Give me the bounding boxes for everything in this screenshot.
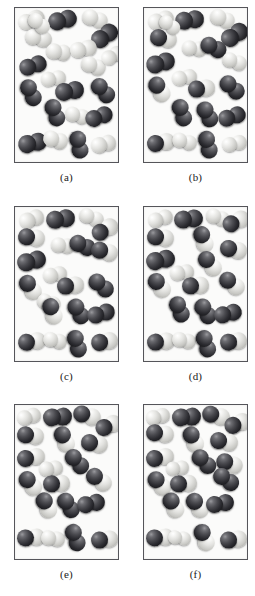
molecule-dark-light bbox=[219, 530, 248, 549]
panel-e-label: (e) bbox=[14, 568, 119, 580]
molecule-dark-dark bbox=[68, 129, 90, 160]
panel-c-frame bbox=[14, 206, 119, 362]
molecule-dark-dark bbox=[42, 407, 72, 427]
molecule-dark-dark bbox=[216, 72, 248, 104]
molecule-dark-dark bbox=[83, 104, 115, 130]
panel-b: (b) bbox=[143, 7, 248, 187]
molecule-light-light bbox=[40, 529, 66, 547]
molecule-dark-dark bbox=[167, 294, 193, 325]
molecule-dark-dark bbox=[193, 328, 218, 360]
molecule-dark-dark bbox=[196, 129, 219, 160]
panel-a-label: (a) bbox=[14, 171, 119, 183]
molecule-dark-light bbox=[90, 331, 119, 352]
panel-f-label: (f) bbox=[143, 568, 248, 580]
panel-d-frame bbox=[143, 206, 248, 362]
molecule-dark-light bbox=[209, 431, 239, 453]
molecule-dark-light bbox=[187, 79, 216, 98]
molecule-dark-light bbox=[33, 490, 60, 522]
molecule-dark-dark bbox=[76, 492, 107, 515]
panel-f: (f) bbox=[143, 404, 248, 584]
molecule-dark-light bbox=[80, 433, 110, 454]
molecule-light-light bbox=[167, 529, 192, 547]
panel-b-frame bbox=[143, 7, 248, 163]
molecule-dark-dark bbox=[216, 104, 248, 129]
molecule-dark-dark bbox=[171, 407, 201, 427]
molecule-light-light bbox=[89, 133, 118, 154]
molecule-dark-light bbox=[56, 276, 85, 295]
molecule-dark-light bbox=[219, 238, 248, 260]
atom-dark bbox=[181, 277, 199, 295]
molecule-dark-dark bbox=[87, 75, 118, 107]
molecule-dark-dark bbox=[85, 301, 117, 325]
panel-d-label: (d) bbox=[143, 370, 248, 382]
molecule-light-light bbox=[220, 51, 248, 73]
molecule-dark-dark bbox=[205, 493, 236, 515]
molecule-dark-light bbox=[146, 227, 175, 247]
panel-c: (c) bbox=[14, 206, 119, 386]
molecule-dark-light bbox=[219, 331, 248, 351]
molecule-dark-dark bbox=[212, 302, 244, 326]
panel-e-frame bbox=[14, 404, 119, 560]
molecule-dark-light bbox=[17, 227, 46, 247]
molecule-light-light bbox=[221, 134, 248, 154]
molecule-dark-light bbox=[160, 489, 187, 521]
panel-b-label: (b) bbox=[143, 171, 248, 183]
molecule-dark-light bbox=[145, 423, 175, 444]
molecule-dark-light bbox=[90, 530, 119, 549]
molecule-dark-dark bbox=[46, 8, 79, 33]
molecule-dark-dark bbox=[62, 521, 88, 553]
molecule-dark-light bbox=[216, 268, 248, 298]
molecule-light-light bbox=[15, 406, 43, 427]
molecular-equilibrium-figure: (a)(b)(c)(d)(e)(f) bbox=[0, 0, 255, 596]
molecule-dark-light bbox=[181, 276, 209, 295]
molecule-dark-dark bbox=[85, 270, 118, 301]
molecule-dark-dark bbox=[45, 208, 76, 230]
molecule-dark-light bbox=[16, 425, 45, 445]
molecule-dark-light bbox=[145, 73, 174, 105]
molecule-dark-light bbox=[89, 240, 119, 263]
panel-f-frame bbox=[143, 404, 248, 560]
panel-c-label: (c) bbox=[14, 370, 119, 382]
panel-a-frame bbox=[14, 7, 119, 163]
molecule-dark-light bbox=[191, 521, 218, 554]
molecule-dark-dark bbox=[169, 97, 194, 129]
molecule-dark-dark bbox=[42, 97, 67, 129]
molecule-dark-dark bbox=[65, 328, 89, 359]
panel-a: (a) bbox=[14, 7, 119, 187]
panel-e: (e) bbox=[14, 404, 119, 584]
panel-d: (d) bbox=[143, 206, 248, 386]
